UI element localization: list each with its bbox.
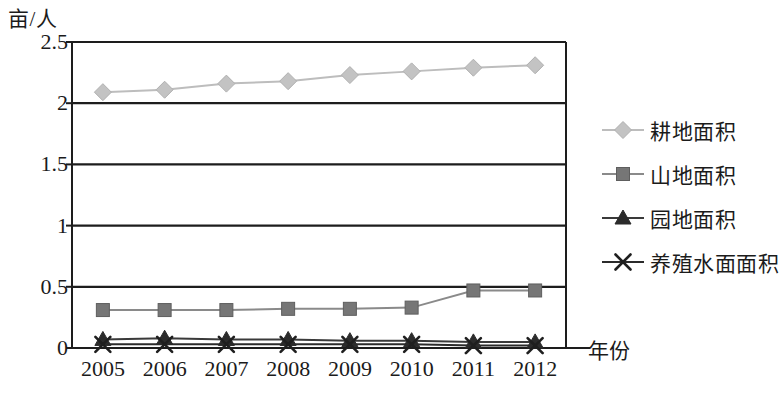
square-marker-icon	[600, 163, 646, 185]
legend-item-label: 养殖水面面积	[646, 247, 779, 277]
legend-item[interactable]: 耕地面积	[600, 108, 772, 152]
legend-item[interactable]: 园地面积	[600, 196, 772, 240]
triangle-marker-icon	[600, 207, 646, 229]
data-point-diamond	[156, 81, 173, 98]
data-point-diamond	[341, 67, 358, 84]
data-point-square	[158, 304, 171, 317]
series-markers-2	[96, 284, 541, 317]
legend-item[interactable]: 养殖水面面积	[600, 240, 772, 284]
legend-item-label: 耕地面积	[646, 115, 736, 145]
x-marker-icon	[600, 251, 646, 273]
data-point-diamond	[527, 57, 544, 74]
data-point-square	[96, 304, 109, 317]
data-point-diamond	[280, 73, 297, 90]
data-point-square	[617, 168, 630, 181]
data-point-diamond	[465, 59, 482, 76]
data-point-square	[405, 301, 418, 314]
data-point-square	[220, 304, 233, 317]
data-point-square	[529, 284, 542, 297]
data-point-diamond	[218, 75, 235, 92]
diamond-marker-icon	[600, 119, 646, 141]
legend-item-label: 山地面积	[646, 159, 736, 189]
legend-item-label: 园地面积	[646, 203, 736, 233]
legend-item[interactable]: 山地面积	[600, 152, 772, 196]
data-point-diamond	[94, 84, 111, 101]
data-point-square	[282, 302, 295, 315]
data-point-square	[343, 302, 356, 315]
data-point-diamond	[403, 63, 420, 80]
data-point-diamond	[615, 122, 632, 139]
chart-legend: 耕地面积山地面积园地面积养殖水面面积	[600, 108, 772, 284]
data-point-square	[467, 284, 480, 297]
